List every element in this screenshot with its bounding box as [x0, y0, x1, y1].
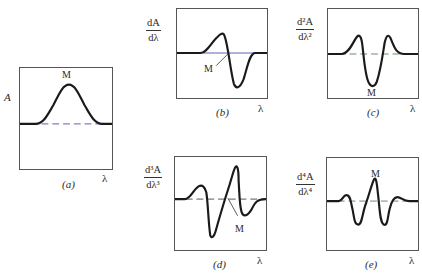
ylabel-e-num: d⁴A — [296, 171, 315, 185]
ylabel-e: d⁴Adλ⁴ — [296, 171, 315, 198]
lambda-b: λ — [258, 102, 263, 114]
caption-b: (b) — [216, 106, 229, 118]
plot-a — [19, 67, 113, 170]
plot-d — [174, 156, 267, 251]
curve-d — [175, 166, 266, 237]
ylabel-d-den: dλ³ — [144, 178, 162, 191]
ylabel-a: A — [4, 91, 11, 103]
lambda-a: λ — [102, 172, 107, 184]
lambda-d: λ — [257, 254, 262, 266]
ylabel-b-num: dA — [146, 17, 161, 31]
marker-m-c: M — [367, 87, 376, 98]
plot-b — [176, 8, 268, 99]
ylabel-c-num: d²A — [296, 16, 314, 30]
caption-e: (e) — [365, 258, 377, 270]
curve-b — [177, 34, 267, 88]
ylabel-d-num: d³A — [144, 164, 162, 178]
lambda-e: λ — [409, 254, 414, 266]
marker-m-b: M — [204, 63, 213, 74]
ylabel-d: d³Adλ³ — [144, 164, 162, 191]
leader-m-d — [228, 198, 238, 216]
marker-m-e: M — [371, 168, 380, 179]
caption-a: (a) — [62, 178, 75, 190]
curve-a — [20, 85, 112, 124]
lambda-c: λ — [410, 102, 415, 114]
curve-c — [328, 36, 418, 86]
caption-c: (c) — [367, 106, 379, 118]
caption-d: (d) — [213, 258, 226, 270]
marker-m-d: M — [235, 223, 244, 234]
plot-c — [327, 8, 419, 99]
ylabel-e-den: dλ⁴ — [296, 185, 315, 198]
ylabel-b: dAdλ — [146, 17, 161, 44]
marker-m-a: M — [62, 69, 71, 80]
ylabel-c-den: dλ² — [296, 30, 314, 43]
ylabel-c: d²Adλ² — [296, 16, 314, 43]
curve-e — [327, 179, 418, 225]
ylabel-b-den: dλ — [146, 31, 161, 44]
leader-m-b — [216, 54, 228, 66]
